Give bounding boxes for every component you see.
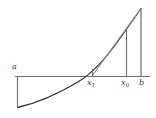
axis-label-a: a [12, 63, 17, 71]
axis-label-x1-subscript: 1 [92, 82, 96, 88]
function-curve [18, 9, 142, 108]
axis-label-x0-subscript: 0 [126, 82, 130, 88]
axis-label-x1-base: x [87, 78, 92, 87]
tangent-line [92, 9, 141, 77]
figure-canvas [0, 0, 156, 118]
axis-label-x0: x0 [121, 79, 129, 87]
axis-label-b: b [139, 79, 144, 87]
newton-method-figure: a x1 x0 b [0, 0, 156, 118]
axis-label-x1: x1 [87, 79, 95, 87]
axis-label-x0-base: x [121, 78, 126, 87]
